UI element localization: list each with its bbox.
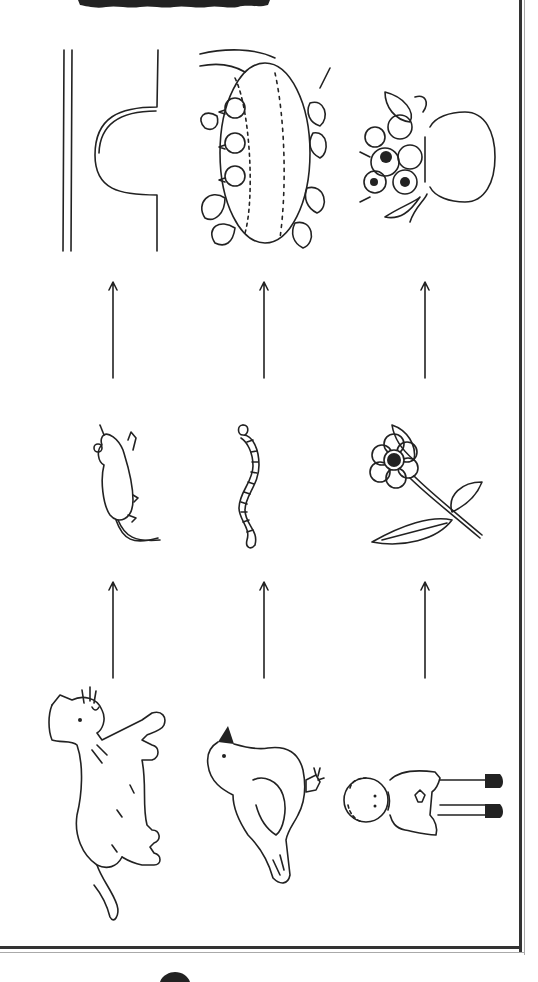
frame-border-bottom — [0, 946, 522, 949]
vase-icon — [355, 82, 495, 227]
cat-label: cat — [182, 685, 183, 686]
mouse-hole-label: mouse hole — [170, 45, 171, 46]
worm-label: worm — [275, 420, 276, 421]
cat-item: cat — [42, 685, 182, 925]
nest-label: bird nest — [335, 48, 336, 49]
nest-item: bird nest — [195, 48, 335, 253]
cat-icon — [42, 685, 182, 925]
arrow-up-icon — [420, 580, 430, 680]
boy-item: boy — [340, 760, 505, 840]
worm-item: worm — [235, 420, 275, 550]
flower-item: flower — [352, 420, 492, 550]
arrow-up-icon — [108, 580, 118, 680]
boy-label: boy — [505, 760, 506, 761]
bird-item: bird — [198, 720, 328, 890]
arrow-up-icon — [420, 280, 430, 380]
mouse-hole-icon — [60, 45, 170, 255]
arrow-up-icon — [259, 280, 269, 380]
bird-label: bird — [328, 720, 329, 721]
flower-icon — [352, 420, 492, 550]
vase-item: flower vase — [355, 82, 495, 227]
frame-border-right-shadow — [524, 0, 525, 955]
title-ink-blob — [78, 0, 270, 8]
flower-label: flower — [492, 420, 493, 421]
mouse-item: mouse — [88, 420, 168, 550]
vase-label: flower vase — [495, 82, 496, 83]
arrow-up-icon — [259, 580, 269, 680]
bird-icon — [198, 720, 328, 890]
arrow-up-icon — [108, 280, 118, 380]
mouse-hole-item: mouse hole — [60, 45, 170, 255]
mouse-icon — [88, 420, 168, 550]
frame-border-bottom-shadow — [0, 952, 525, 953]
nest-icon — [195, 48, 335, 253]
bottom-ink-blob — [160, 972, 190, 982]
mouse-label: mouse — [168, 420, 169, 421]
frame-border-right — [519, 0, 522, 952]
boy-icon — [340, 760, 505, 840]
worm-icon — [235, 420, 275, 550]
